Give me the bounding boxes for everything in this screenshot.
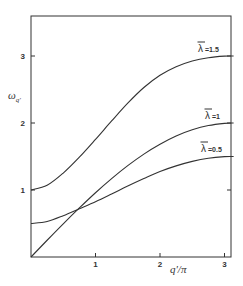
data-curves	[31, 56, 234, 257]
x-tick-label: 3	[222, 260, 227, 269]
svg-text:λ: λ	[201, 143, 206, 154]
svg-text:=1: =1	[212, 113, 220, 120]
curve-label-1: λ=1	[205, 109, 221, 121]
curve-series-2	[31, 156, 234, 223]
y-axis-label: ωq'	[8, 89, 21, 104]
y-tick-label: 1	[21, 186, 26, 195]
svg-text:λ: λ	[205, 110, 210, 121]
svg-text:=1.5: =1.5	[205, 46, 219, 53]
svg-text:=0.5: =0.5	[208, 146, 222, 153]
chart-canvas: 123123 λ=1.5λ=1λ=0.5 ωq' q'/π	[0, 0, 243, 286]
x-tick-label: 1	[93, 260, 98, 269]
curve-label-0: λ=1.5	[198, 42, 219, 54]
curve-label-2: λ=0.5	[201, 142, 222, 154]
axis-ticks: 123123	[21, 52, 231, 269]
y-tick-label: 2	[21, 119, 26, 128]
y-tick-label: 3	[21, 52, 26, 61]
x-axis-label: q'/π	[170, 263, 187, 275]
svg-text:λ: λ	[198, 43, 203, 54]
curve-series-0	[31, 56, 234, 190]
x-tick-label: 2	[158, 260, 163, 269]
